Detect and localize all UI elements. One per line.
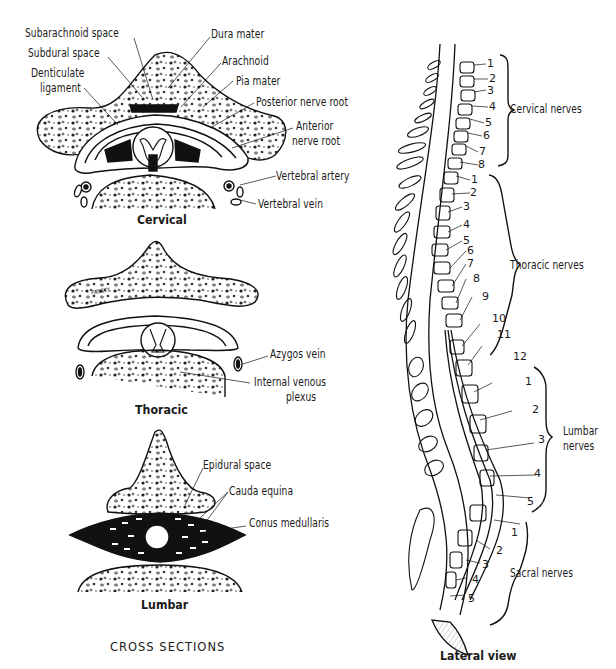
label-cervical-nerves: Cervical nerves — [510, 103, 582, 116]
thoracic-nerve-number: 2 — [470, 186, 477, 199]
cervical-nerve-number: 6 — [483, 129, 490, 142]
sacral-nerve-number: 4 — [472, 573, 479, 586]
label-denticulate-ligament-line1: Denticulate — [31, 67, 85, 80]
sacral-nerve-number: 5 — [468, 592, 475, 605]
cervical-nerve-number: 4 — [489, 100, 496, 113]
caption-thoracic: Thoracic — [135, 402, 188, 417]
label-azygos-vein: Azygos vein — [270, 348, 326, 361]
cross-sections-title: CROSS SECTIONS — [110, 640, 225, 654]
thoracic-nerve-number: 11 — [497, 328, 511, 341]
lumbar-nerve-number: 5 — [527, 495, 534, 508]
cervical-nerve-number: 3 — [487, 84, 494, 97]
label-pia-mater: Pia mater — [236, 75, 280, 88]
cervical-nerve-number: 8 — [478, 158, 485, 171]
thoracic-nerve-number: 7 — [467, 257, 474, 270]
spinous-processes — [391, 59, 447, 590]
thoracic-nerve-number: 4 — [463, 218, 470, 231]
sacral-nerve-number: 2 — [496, 544, 503, 557]
label-lumbar-nerves-line2: nerves — [563, 440, 594, 453]
lateral-view-title: Lateral view — [440, 648, 517, 663]
caption-cervical: Cervical — [137, 212, 187, 227]
label-denticulate-ligament-line2: ligament — [40, 82, 81, 95]
cervical-nerve-number: 7 — [479, 145, 486, 158]
label-vertebral-vein: Vertebral vein — [258, 198, 323, 211]
lumbar-nerve-number: 1 — [525, 375, 532, 388]
thoracic-nerve-number: 8 — [473, 272, 480, 285]
thoracic-nerve-number: 1 — [471, 173, 478, 186]
label-vertebral-artery: Vertebral artery — [276, 170, 350, 183]
label-posterior-nerve-root: Posterior nerve root — [256, 96, 348, 109]
label-epidural-space: Epidural space — [203, 459, 271, 472]
sacral-nerve-number: 1 — [511, 526, 518, 539]
label-conus-medullaris: Conus medullaris — [249, 517, 329, 530]
lumbar-nerve-number: 4 — [534, 467, 541, 480]
label-subarachnoid-space: Subarachnoid space — [25, 27, 119, 40]
cervical-nerve-number: 1 — [487, 57, 494, 70]
label-internal-venous-plexus-line2: plexus — [286, 391, 316, 404]
thoracic-nerve-number: 12 — [513, 350, 527, 363]
label-sacral-nerves: Sacral nerves — [510, 567, 573, 580]
label-lumbar-nerves-line1: Lumbar — [563, 425, 598, 438]
caption-lumbar: Lumbar — [141, 597, 188, 612]
label-arachnoid: Arachnoid — [222, 55, 269, 68]
label-subdural-space: Subdural space — [28, 47, 100, 60]
thoracic-cross-section — [65, 241, 268, 397]
lumbar-cross-section — [70, 430, 246, 592]
thoracic-nerve-number: 10 — [492, 312, 506, 325]
label-cauda-equina: Cauda equina — [229, 485, 293, 498]
cervical-nerve-number: 5 — [485, 116, 492, 129]
thoracic-nerve-number: 3 — [463, 200, 470, 213]
lumbar-nerve-number: 2 — [532, 403, 539, 416]
label-thoracic-nerves: Thoracic nerves — [510, 259, 584, 272]
sacral-nerve-number: 3 — [482, 558, 489, 571]
thoracic-nerve-number: 9 — [482, 290, 489, 303]
label-anterior-nerve-root-line2: nerve root — [292, 135, 340, 148]
label-internal-venous-plexus-line1: Internal venous — [254, 376, 326, 389]
lateral-spine — [391, 44, 552, 655]
label-dura-mater: Dura mater — [211, 28, 264, 41]
lumbar-nerve-number: 3 — [538, 433, 545, 446]
label-anterior-nerve-root-line1: Anterior — [296, 120, 333, 133]
thoracic-nerve-number: 6 — [467, 244, 474, 257]
